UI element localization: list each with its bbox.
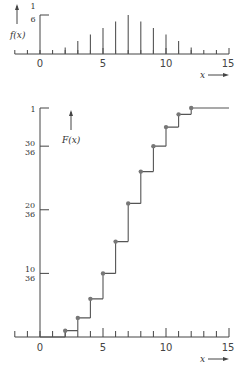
top-x-tick-15: 15 [222, 58, 235, 69]
x-arrow-head [223, 73, 229, 77]
cdf-point [101, 271, 105, 275]
y-arrow-head [69, 110, 73, 116]
cdf-point [139, 169, 143, 173]
bottom-x-tick-0: 0 [37, 342, 43, 353]
cdf-point [151, 144, 155, 148]
cdf-point [88, 297, 92, 301]
chart-canvas: f(x) 1 6 0 5 10 15 x F(x) 1 30 36 20 36 … [0, 0, 241, 372]
cdf-point [176, 112, 180, 116]
bottom-y-tick-10-num: 10 [25, 265, 35, 274]
bottom-y-tick-1: 1 [30, 105, 35, 114]
bottom-x-axis-label: x [200, 354, 205, 364]
bottom-x-tick-15: 15 [222, 342, 235, 353]
top-x-axis-label: x [200, 70, 205, 80]
pmf-chart [15, 4, 229, 77]
top-x-tick-5: 5 [100, 58, 106, 69]
y-arrow-head [15, 4, 19, 10]
bottom-y-axis-label: F(x) [61, 135, 81, 145]
bottom-x-tick-10: 10 [160, 342, 173, 353]
bottom-y-tick-20-den: 36 [25, 210, 35, 219]
bottom-y-tick-10-den: 36 [25, 274, 35, 283]
bottom-x-tick-5: 5 [100, 342, 106, 353]
cdf-point [126, 201, 130, 205]
top-y-tick-num: 1 [30, 2, 35, 11]
cdf-point [63, 328, 67, 332]
bottom-y-tick-20-num: 20 [25, 201, 35, 210]
cdf-point [76, 316, 80, 320]
bottom-y-tick-30-den: 36 [25, 148, 35, 157]
top-x-tick-10: 10 [160, 58, 173, 69]
bottom-y-tick-30-num: 30 [25, 139, 35, 148]
x-arrow-head [223, 357, 229, 361]
cdf-chart [15, 106, 229, 361]
top-y-tick-den: 6 [30, 15, 35, 24]
top-y-axis-label: f(x) [9, 30, 26, 40]
cdf-point [164, 125, 168, 129]
cdf-point [189, 106, 193, 110]
cdf-point [113, 239, 117, 243]
top-x-tick-0: 0 [37, 58, 43, 69]
